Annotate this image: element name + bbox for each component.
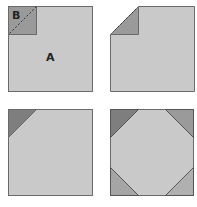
square-a-with-square-b: B A	[8, 6, 94, 93]
panel-step-2	[110, 6, 196, 93]
label-a: A	[46, 51, 55, 64]
panel-step-4	[110, 109, 196, 197]
square-four-corners	[110, 109, 196, 197]
label-b: B	[12, 9, 20, 22]
panel-step-1: B A	[8, 6, 94, 93]
square-one-corner	[8, 109, 94, 197]
panel-step-3	[8, 109, 94, 197]
square-folded-corner	[110, 6, 196, 93]
